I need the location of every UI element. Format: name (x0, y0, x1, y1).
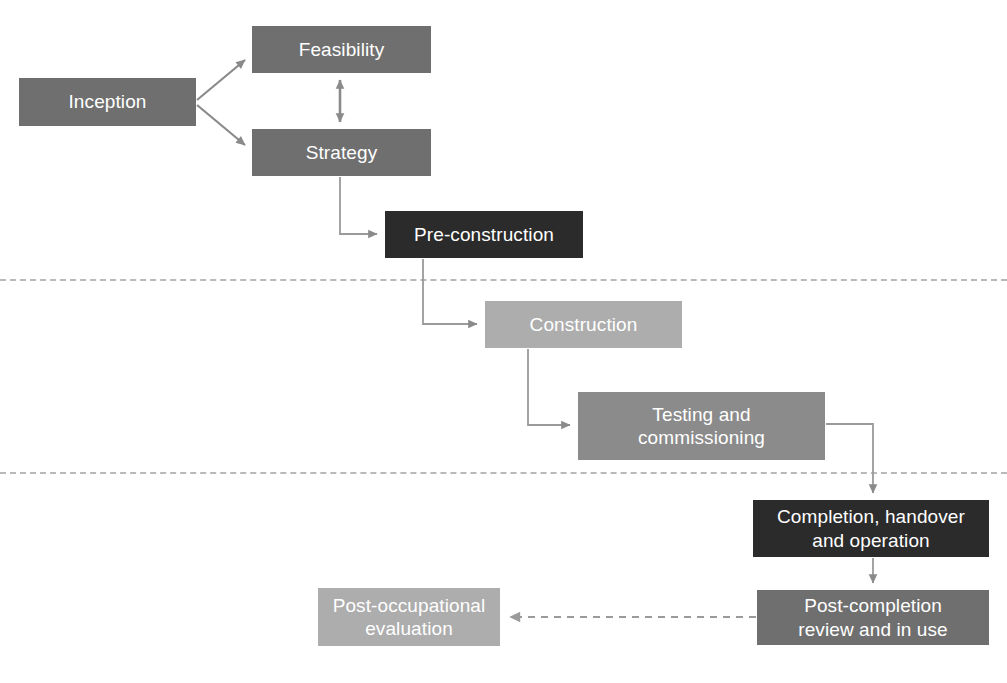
node-feasibility-label: Feasibility (258, 38, 425, 61)
node-testing-and-commissioning-label: Testing and commissioning (584, 403, 819, 449)
node-inception[interactable]: Inception (19, 78, 196, 126)
node-post-completion-review-and-in-use[interactable]: Post-completion review and in use (757, 590, 989, 645)
node-pre-construction-label: Pre-construction (391, 223, 577, 246)
node-pre-construction[interactable]: Pre-construction (385, 211, 583, 258)
node-strategy[interactable]: Strategy (252, 129, 431, 176)
edge-inception-to-strategy (197, 105, 245, 145)
node-testing-and-commissioning[interactable]: Testing and commissioning (578, 392, 825, 460)
node-completion-handover-and-operation[interactable]: Completion, handover and operation (753, 500, 989, 557)
edge-inception-to-feasibility (197, 60, 245, 100)
edge-construction-to-testing (528, 349, 570, 425)
edge-testing-to-completion (826, 424, 873, 493)
node-feasibility[interactable]: Feasibility (252, 26, 431, 73)
node-post-occupational-evaluation-label: Post-occupational evaluation (324, 594, 494, 640)
node-completion-handover-and-operation-label: Completion, handover and operation (759, 505, 983, 551)
phase-divider-line-2 (0, 472, 1007, 474)
node-inception-label: Inception (25, 90, 190, 113)
node-construction[interactable]: Construction (485, 301, 682, 348)
node-construction-label: Construction (491, 313, 676, 336)
node-strategy-label: Strategy (258, 141, 425, 164)
edge-strategy-to-pre-construction (340, 177, 377, 234)
diagram-canvas: Inception Feasibility Strategy Pre-const… (0, 0, 1007, 683)
node-post-occupational-evaluation[interactable]: Post-occupational evaluation (318, 588, 500, 646)
phase-divider-line-1 (0, 279, 1007, 281)
edge-pre-construction-to-construction (423, 259, 477, 324)
node-post-completion-review-and-in-use-label: Post-completion review and in use (763, 594, 983, 640)
